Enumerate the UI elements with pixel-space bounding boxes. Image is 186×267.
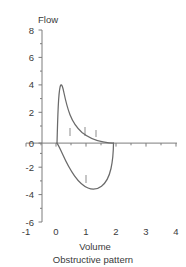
chart-canvas: 8 6 4 2 0 -2 -4 -6 -1 0 1 2 3 4 Flow Vol… <box>0 0 186 267</box>
flow-volume-loop-figure: 8 6 4 2 0 -2 -4 -6 -1 0 1 2 3 4 Flow Vol… <box>0 0 186 267</box>
x-axis-title: Volume <box>79 241 111 252</box>
xtick-label-2: 2 <box>113 226 118 237</box>
xtick-label-3: 3 <box>143 226 148 237</box>
ytick-label-2: 2 <box>29 107 34 118</box>
ytick-label-8: 8 <box>29 25 34 36</box>
xtick-label-0: 0 <box>53 226 58 237</box>
y-axis-title: Flow <box>38 14 58 25</box>
xtick-label-neg1: -1 <box>22 226 30 237</box>
inspiratory-limb-curve <box>57 143 114 189</box>
figure-caption: Obstructive pattern <box>53 254 133 265</box>
ytick-label-6: 6 <box>29 52 34 63</box>
ytick-label-neg4: -4 <box>26 189 34 200</box>
xtick-label-1: 1 <box>83 226 88 237</box>
ytick-label-neg2: -2 <box>26 162 34 173</box>
ytick-label-0: 0 <box>29 138 34 149</box>
expiratory-limb-curve <box>57 85 114 143</box>
xtick-label-4: 4 <box>173 226 178 237</box>
ytick-label-4: 4 <box>29 79 34 90</box>
